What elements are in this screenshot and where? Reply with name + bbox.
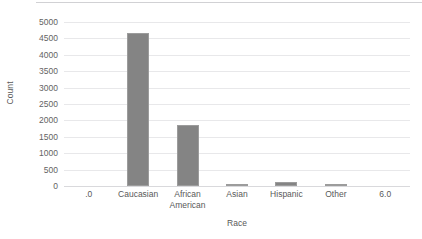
- y-axis-tick-label: 2500: [0, 100, 58, 109]
- y-axis-tick-label: 500: [0, 165, 58, 174]
- y-axis-tick-labels: 5000450040003500300025002000150010005000: [0, 22, 58, 186]
- bar[interactable]: [325, 184, 347, 186]
- x-axis-tick-label: Caucasian: [113, 189, 162, 200]
- plot-area: [64, 22, 410, 186]
- x-axis-tick-label: African American: [163, 189, 212, 211]
- bar-chart: Count 5000450040003500300025002000150010…: [0, 0, 422, 239]
- x-axis-tick-label: Hispanic: [262, 189, 311, 200]
- x-axis-tick-label: .0: [64, 189, 113, 200]
- bar[interactable]: [275, 182, 297, 186]
- y-axis-tick-label: 5000: [0, 18, 58, 27]
- top-divider: [36, 2, 422, 3]
- y-axis-tick-label: 3500: [0, 67, 58, 76]
- x-axis-title: Race: [64, 218, 410, 228]
- gridline: [64, 186, 410, 187]
- bar[interactable]: [127, 33, 149, 187]
- y-axis-tick-label: 0: [0, 182, 58, 191]
- y-axis-tick-label: 1500: [0, 132, 58, 141]
- y-axis-tick-label: 3000: [0, 83, 58, 92]
- bar[interactable]: [226, 184, 248, 186]
- x-axis-tick-label: Asian: [212, 189, 261, 200]
- y-axis-tick-label: 4500: [0, 34, 58, 43]
- y-axis-tick-label: 2000: [0, 116, 58, 125]
- bar[interactable]: [177, 125, 199, 186]
- x-axis-tick-label: Other: [311, 189, 360, 200]
- bar-series: [64, 22, 410, 186]
- y-axis-tick-label: 4000: [0, 50, 58, 59]
- y-axis-tick-label: 1000: [0, 149, 58, 158]
- x-axis-tick-label: 6.0: [361, 189, 410, 200]
